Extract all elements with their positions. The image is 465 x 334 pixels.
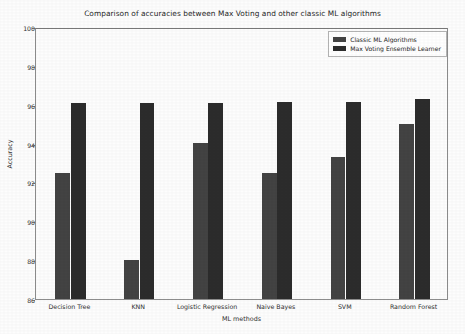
bar-ensemble bbox=[346, 102, 361, 299]
y-tick-label: 98 bbox=[0, 63, 35, 70]
bar-ensemble bbox=[71, 103, 86, 299]
legend-item: Max Voting Ensemble Learner bbox=[333, 44, 441, 53]
chart-legend: Classic ML AlgorithmsMax Voting Ensemble… bbox=[328, 31, 447, 57]
x-tick-label: KNN bbox=[131, 303, 145, 310]
bar-ensemble bbox=[140, 103, 155, 299]
y-tick-mark bbox=[32, 300, 35, 301]
x-tick-label: Logistic Regression bbox=[177, 303, 237, 310]
y-tick-label: 88 bbox=[0, 258, 35, 265]
bar-classic bbox=[55, 173, 70, 299]
bar-group bbox=[262, 29, 292, 299]
y-tick-label: 100 bbox=[0, 25, 35, 32]
bar-classic bbox=[262, 173, 277, 299]
y-tick-label: 94 bbox=[0, 141, 35, 148]
bar-group bbox=[55, 29, 85, 299]
bar-chart-figure: Comparison of accuracies between Max Vot… bbox=[0, 0, 465, 334]
x-axis-label: ML methods bbox=[35, 315, 448, 323]
legend-label: Max Voting Ensemble Learner bbox=[350, 45, 441, 52]
bar-classic bbox=[193, 143, 208, 299]
legend-label: Classic ML Algorithms bbox=[350, 36, 417, 43]
x-tick-label: Decision Tree bbox=[48, 303, 90, 310]
x-tick-label: SVM bbox=[338, 303, 352, 310]
bar-ensemble bbox=[277, 102, 292, 299]
bar-classic bbox=[399, 124, 414, 299]
x-tick-label: Naive Bayes bbox=[256, 303, 295, 310]
bar-group bbox=[399, 29, 429, 299]
bar-classic bbox=[124, 260, 139, 299]
y-tick-label: 90 bbox=[0, 219, 35, 226]
bar-group bbox=[331, 29, 361, 299]
bars-layer bbox=[36, 29, 447, 299]
bar-group bbox=[124, 29, 154, 299]
legend-item: Classic ML Algorithms bbox=[333, 35, 441, 44]
x-tick-label: Random Forest bbox=[390, 303, 437, 310]
legend-swatch-icon bbox=[333, 46, 346, 51]
y-tick-label: 96 bbox=[0, 102, 35, 109]
y-tick-label: 92 bbox=[0, 180, 35, 187]
chart-title: Comparison of accuracies between Max Vot… bbox=[0, 9, 465, 18]
bar-ensemble bbox=[208, 103, 223, 299]
bar-ensemble bbox=[415, 99, 430, 299]
legend-swatch-icon bbox=[333, 37, 346, 42]
plot-area bbox=[35, 28, 448, 300]
y-axis-label: Accuracy bbox=[6, 94, 14, 214]
bar-classic bbox=[331, 157, 346, 299]
y-tick-label: 86 bbox=[0, 297, 35, 304]
bar-group bbox=[193, 29, 223, 299]
